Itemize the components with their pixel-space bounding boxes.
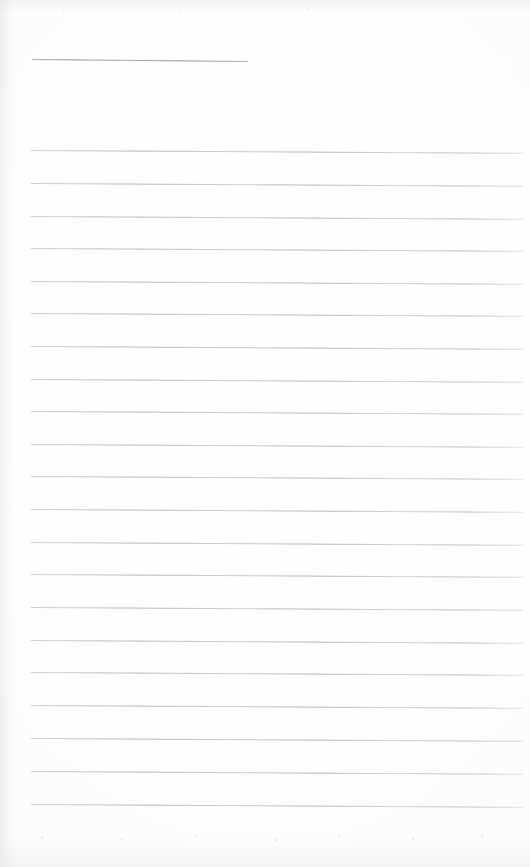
rule-line <box>31 574 523 578</box>
heading-rule-line <box>32 59 248 62</box>
rule-line <box>31 705 523 709</box>
rule-line <box>31 738 523 742</box>
rule-line <box>31 150 523 154</box>
scanned-page <box>0 0 530 867</box>
rule-line <box>31 542 523 546</box>
rule-line <box>31 607 523 611</box>
rule-line <box>31 216 523 220</box>
rule-line <box>31 771 523 775</box>
rule-line <box>31 476 523 480</box>
rule-line <box>31 379 523 383</box>
rule-line <box>31 640 523 644</box>
rule-line <box>31 444 523 448</box>
rule-line <box>31 346 523 350</box>
ruled-lines-layer <box>0 0 530 867</box>
rule-line <box>31 509 523 513</box>
rule-line <box>31 313 523 317</box>
rule-line <box>31 248 523 252</box>
rule-line <box>31 804 523 808</box>
rule-line <box>31 672 523 676</box>
rule-line <box>31 281 523 285</box>
rule-line <box>31 411 523 415</box>
rule-line <box>31 183 523 187</box>
